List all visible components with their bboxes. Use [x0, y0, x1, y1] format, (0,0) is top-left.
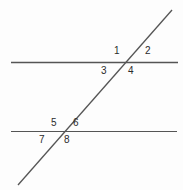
angle-label-7: 7 — [39, 135, 45, 145]
geometry-figure-svg — [0, 0, 183, 190]
angle-label-1: 1 — [114, 46, 120, 56]
angle-label-4: 4 — [128, 66, 134, 76]
angle-label-5: 5 — [51, 118, 57, 128]
angle-label-8: 8 — [64, 135, 70, 145]
transversal-line — [18, 10, 172, 185]
angle-label-6: 6 — [73, 118, 79, 128]
angle-label-3: 3 — [101, 66, 107, 76]
geometry-figure-canvas: 12345678 — [0, 0, 183, 190]
angle-label-2: 2 — [145, 46, 151, 56]
